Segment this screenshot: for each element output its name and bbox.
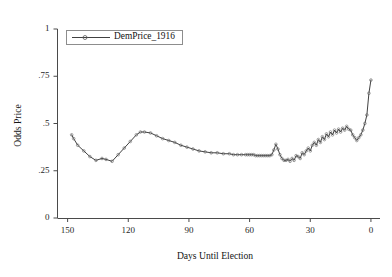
y-axis-title: Odds Price — [12, 80, 23, 172]
plot-svg — [0, 0, 392, 277]
x-tick-label: 30 — [295, 225, 325, 235]
x-tick-label: 0 — [356, 225, 386, 235]
series-line-demprice-1916 — [72, 80, 371, 161]
x-tick-label: 120 — [113, 225, 143, 235]
y-tick-label: 0 — [24, 212, 50, 222]
x-axis-title: Days Until Election — [100, 250, 330, 261]
x-tick-label: 150 — [53, 225, 83, 235]
chart-legend: DemPrice_1916 — [66, 30, 183, 45]
y-tick-label: 1 — [24, 23, 50, 33]
legend-label: DemPrice_1916 — [114, 32, 175, 41]
line-circle-marker-icon — [72, 33, 110, 42]
y-tick-label: .5 — [24, 118, 50, 128]
series-markers-demprice-1916 — [70, 79, 372, 163]
chart-figure: Presidential Odds Market for 1916 Electi… — [0, 0, 392, 277]
plot-area: 0.25.5.751 1501209060300 Odds Price Days… — [0, 0, 392, 277]
y-axis-ticks — [54, 29, 58, 218]
y-tick-label: .25 — [24, 165, 50, 175]
y-tick-label: .75 — [24, 70, 50, 80]
x-tick-label: 90 — [174, 225, 204, 235]
x-tick-label: 60 — [235, 225, 265, 235]
